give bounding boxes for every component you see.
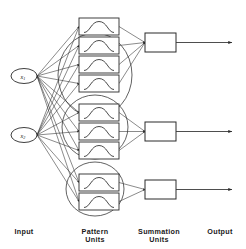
edge-x2-p2-3 bbox=[37, 135, 79, 151]
edge-p1-3-s1 bbox=[119, 43, 145, 65]
edge-x2-p1-2 bbox=[37, 46, 79, 136]
column-label-output: Output bbox=[207, 227, 233, 236]
input-node-x2[interactable]: x2 bbox=[11, 128, 37, 143]
pattern-unit[interactable] bbox=[79, 193, 119, 210]
input-nodes: x1 x2 bbox=[11, 69, 37, 143]
input-node-x1[interactable]: x1 bbox=[11, 69, 37, 84]
pattern-unit[interactable] bbox=[79, 56, 119, 73]
pattern-units-group-1 bbox=[79, 18, 119, 92]
pattern-units-group-2 bbox=[79, 104, 119, 159]
summation-units bbox=[145, 33, 176, 199]
edges-input-to-pattern bbox=[37, 27, 79, 202]
column-label-line2: Units bbox=[149, 235, 168, 244]
column-label-line2: Units bbox=[85, 235, 104, 244]
pnn-architecture-diagram: x1 x2 Input bbox=[0, 0, 246, 249]
column-labels: Input Pattern Units Summation Units Outp… bbox=[14, 227, 233, 244]
column-label-line1: Output bbox=[207, 227, 233, 236]
pattern-unit[interactable] bbox=[79, 37, 119, 54]
pattern-unit[interactable] bbox=[79, 142, 119, 159]
edge-x2-p2-2 bbox=[37, 132, 79, 136]
column-label-input: Input bbox=[14, 227, 33, 236]
edge-p1-1-s1 bbox=[119, 27, 145, 43]
edges-pattern-to-summation bbox=[119, 27, 145, 202]
column-label-summation: Summation Units bbox=[138, 227, 180, 244]
column-label-line1: Input bbox=[14, 227, 33, 236]
summation-unit-box[interactable] bbox=[145, 180, 176, 199]
summation-unit-box[interactable] bbox=[145, 33, 176, 52]
column-label-pattern: Pattern Units bbox=[82, 227, 109, 244]
edge-x1-p3-1 bbox=[37, 76, 79, 183]
edge-x2-p3-1 bbox=[37, 135, 79, 183]
summation-unit-box[interactable] bbox=[145, 122, 176, 141]
pattern-unit[interactable] bbox=[79, 75, 119, 92]
edge-p2-1-s2 bbox=[119, 113, 145, 132]
edge-x1-p3-2 bbox=[37, 76, 79, 202]
pattern-units-group-3 bbox=[79, 174, 119, 210]
output-arrows bbox=[176, 43, 232, 190]
edge-p2-3-s2 bbox=[119, 132, 145, 151]
diagram-canvas: x1 x2 Input bbox=[0, 0, 246, 249]
edge-p3-1-s3 bbox=[119, 183, 145, 190]
pattern-unit[interactable] bbox=[79, 123, 119, 140]
pattern-unit[interactable] bbox=[79, 174, 119, 191]
edge-x2-p1-4 bbox=[37, 84, 79, 136]
edge-x2-p3-2 bbox=[37, 135, 79, 202]
edge-x2-p2-1 bbox=[37, 113, 79, 136]
pattern-unit[interactable] bbox=[79, 104, 119, 121]
pattern-unit[interactable] bbox=[79, 18, 119, 35]
edge-p1-2-s1 bbox=[119, 43, 145, 46]
